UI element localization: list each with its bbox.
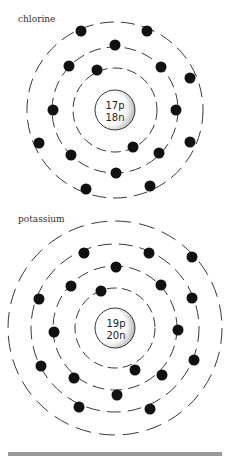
electron	[171, 105, 182, 116]
electron	[185, 73, 196, 84]
electron	[187, 293, 198, 304]
electron	[96, 286, 107, 297]
potassium-neutrons: 20n	[106, 330, 125, 341]
chlorine-protons: 17p	[105, 100, 124, 111]
electron	[69, 373, 80, 384]
atom-diagrams: 17p 18n 19p 20n	[0, 0, 230, 456]
electron	[64, 61, 75, 72]
potassium-protons: 19p	[106, 318, 125, 329]
caption-partial	[8, 452, 222, 456]
electron	[48, 105, 59, 116]
electron	[154, 148, 165, 159]
electron	[157, 370, 168, 381]
electron	[81, 184, 92, 195]
electron	[76, 26, 87, 37]
electron	[185, 137, 196, 148]
chlorine-neutrons: 18n	[105, 112, 124, 123]
electron	[110, 40, 121, 51]
electron	[130, 365, 141, 376]
electron	[111, 262, 122, 273]
electron	[92, 65, 103, 76]
electron	[49, 327, 60, 338]
electron	[187, 252, 198, 263]
electron	[128, 142, 139, 153]
electron	[144, 248, 155, 259]
electron	[34, 138, 45, 149]
electron	[111, 168, 122, 179]
electron	[74, 402, 85, 413]
electron	[156, 280, 167, 291]
electron	[112, 390, 123, 401]
electron	[189, 355, 200, 366]
electron	[36, 361, 47, 372]
electron	[66, 281, 77, 292]
electron	[79, 248, 90, 259]
electron	[156, 62, 167, 73]
electron	[145, 181, 156, 192]
electron	[66, 150, 77, 161]
electron	[145, 404, 156, 415]
electron	[34, 294, 45, 305]
electron	[173, 325, 184, 336]
electron	[142, 26, 153, 37]
